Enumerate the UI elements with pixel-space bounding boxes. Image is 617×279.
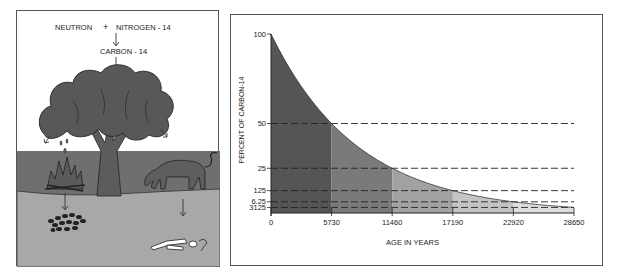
x-tick-label: 11460 (382, 218, 402, 227)
y-tick-label: 125 (253, 186, 266, 195)
nitrogen-label: NITROGEN - 14 (116, 23, 171, 32)
x-axis-label: AGE IN YEARS (386, 238, 439, 247)
soil-layer (17, 189, 220, 267)
x-tick-label: 22920 (503, 218, 524, 227)
x-tick-label: 28650 (564, 218, 585, 227)
plus-sign: + (103, 22, 108, 32)
y-axis-label: PERCENT OF CARBON-14 (238, 76, 245, 163)
y-tick-label: 50 (258, 119, 266, 128)
decay-chart-panel: 10050251256.253125 057301146017190229202… (230, 14, 603, 266)
y-tick-label: 100 (253, 30, 266, 39)
illustration-svg: NEUTRON + NITROGEN - 14 CARBON - 14 CARB… (17, 11, 220, 267)
carbon-cycle-illustration: NEUTRON + NITROGEN - 14 CARBON - 14 CARB… (16, 10, 219, 266)
arrow-down-icon (113, 33, 119, 46)
x-tick-label: 5730 (323, 218, 340, 227)
y-tick-label: 3125 (249, 203, 266, 212)
x-tick-label: 17190 (442, 218, 463, 227)
x-tick-label: 0 (269, 218, 273, 227)
y-tick-label: 25 (258, 164, 266, 173)
carbon14-label: CARBON - 14 (100, 47, 147, 56)
decay-chart: 10050251256.253125 057301146017190229202… (231, 15, 604, 267)
neutron-label: NEUTRON (55, 23, 92, 32)
